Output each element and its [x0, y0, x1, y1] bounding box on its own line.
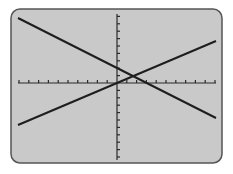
graphing-calculator-screen — [0, 0, 233, 174]
